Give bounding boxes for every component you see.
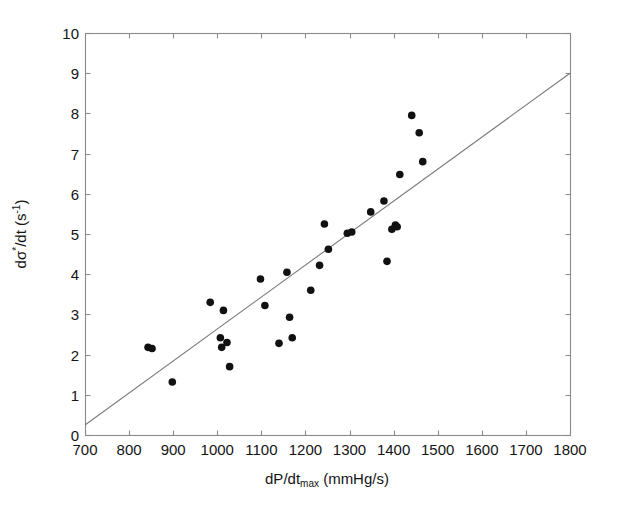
axes-frame: [86, 34, 571, 436]
y-tick-label: 0: [53, 427, 79, 444]
plot-canvas: [0, 0, 619, 512]
x-tick-label: 700: [72, 441, 97, 458]
scatter-plot-figure: dσ*/dt (s-1) dP/dtmax (mmHg/s) 700800900…: [0, 0, 619, 512]
y-tick-label: 8: [53, 105, 79, 122]
y-tick-label: 5: [53, 226, 79, 243]
x-tick-label: 1100: [245, 441, 277, 458]
y-tick-label: 7: [53, 145, 79, 162]
x-tick-label: 1600: [465, 441, 498, 458]
y-axis-ticks: [86, 34, 571, 436]
x-axis-ticks: [86, 34, 571, 436]
y-tick-label: 9: [53, 65, 79, 82]
x-tick-label: 1200: [289, 441, 322, 458]
x-axis-label-text: dP/dtmax (mmHg/s): [265, 470, 389, 487]
y-tick-label: 6: [53, 185, 79, 202]
x-tick-label: 1000: [201, 441, 234, 458]
y-axis-label: dσ*/dt (s-1): [12, 165, 29, 234]
x-tick-label: 1800: [553, 441, 586, 458]
y-tick-label: 1: [53, 386, 79, 403]
y-tick-label: 3: [53, 306, 79, 323]
y-tick-label: 2: [53, 346, 79, 363]
y-tick-label: 10: [53, 25, 79, 42]
data-points: [144, 112, 426, 386]
x-tick-label: 1400: [377, 441, 410, 458]
y-axis-label-text: dσ*/dt (s-1): [12, 200, 29, 269]
x-tick-label: 1500: [421, 441, 454, 458]
x-axis-label: dP/dtmax (mmHg/s): [265, 470, 389, 487]
y-tick-label: 4: [53, 266, 79, 283]
x-tick-label: 900: [161, 441, 186, 458]
x-tick-label: 1300: [333, 441, 366, 458]
x-tick-label: 1700: [509, 441, 542, 458]
x-tick-label: 800: [117, 441, 142, 458]
